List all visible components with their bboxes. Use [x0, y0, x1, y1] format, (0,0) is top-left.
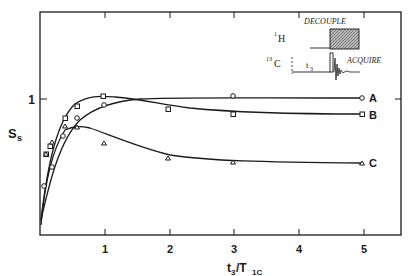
svg-text:C: C [274, 58, 281, 69]
svg-text:S: S [8, 126, 17, 141]
svg-text:1C: 1C [252, 268, 262, 276]
svg-text:H: H [278, 33, 285, 44]
svg-text:3: 3 [310, 66, 313, 72]
x-tick-4: 4 [296, 243, 303, 255]
series-label-b: B [369, 109, 377, 121]
chart-canvas: 1 2 3 4 5 1 S s t 3 /T 1C [0, 0, 412, 276]
pulse-sequence-inset: DECOUPLE 1 H 13 C t 3 ACQUIRE [266, 17, 381, 80]
x-tick-3: 3 [231, 243, 237, 255]
y-tick-1: 1 [28, 93, 35, 107]
x-tick-5: 5 [361, 243, 367, 255]
markers-a [42, 94, 365, 189]
x-axis-label: t 3 /T 1C [227, 261, 262, 276]
x-tick-1: 1 [102, 243, 108, 255]
series-label-a: A [369, 92, 377, 104]
curve-c [41, 127, 363, 225]
svg-text:s: s [17, 133, 22, 143]
markers-b [44, 94, 365, 157]
series-label-c: C [369, 157, 377, 169]
svg-text:13: 13 [266, 56, 272, 62]
svg-text:t: t [306, 60, 309, 70]
acquire-label: ACQUIRE [346, 56, 381, 65]
x-tick-2: 2 [167, 243, 173, 255]
svg-text:1: 1 [274, 31, 277, 37]
decouple-label: DECOUPLE [303, 17, 346, 26]
svg-text:/T: /T [236, 261, 247, 275]
decouple-block [330, 29, 359, 49]
y-axis-label: S s [8, 126, 22, 143]
